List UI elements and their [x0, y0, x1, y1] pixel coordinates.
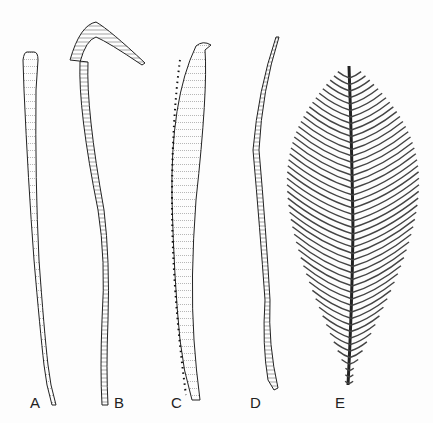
panel-label-e: E — [335, 394, 345, 411]
specimen-b — [70, 22, 145, 405]
panel-label-b: B — [114, 394, 124, 411]
specimen-drawings — [0, 0, 433, 423]
panel-label-d: D — [250, 394, 261, 411]
specimen-a — [23, 52, 56, 405]
specimen-d — [253, 37, 279, 390]
figure: A B C D E — [0, 0, 433, 423]
specimen-c — [172, 43, 211, 400]
panel-label-a: A — [30, 394, 40, 411]
panel-label-c: C — [171, 394, 182, 411]
specimen-e — [287, 66, 419, 385]
